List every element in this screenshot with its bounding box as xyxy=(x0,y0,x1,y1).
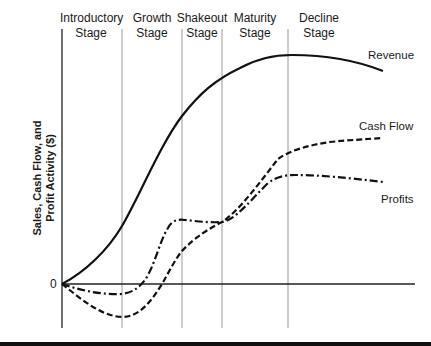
series-label-revenue: Revenue xyxy=(368,49,414,61)
chart-plot xyxy=(0,0,431,346)
bottom-border-bar xyxy=(0,342,431,346)
series-label-cash-flow: Cash Flow xyxy=(359,120,413,132)
series-label-profits: Profits xyxy=(381,193,414,205)
